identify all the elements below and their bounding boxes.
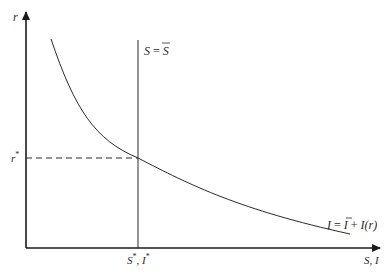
equilibrium-rate-label: r* <box>11 150 19 164</box>
svg-text:I = I + I(r): I = I + I(r) <box>326 218 377 232</box>
saving-line-label: S = S <box>144 43 170 58</box>
investment-curve-label: I = I + I(r) <box>326 218 377 232</box>
investment-curve <box>51 39 350 234</box>
svg-text:S = S: S = S <box>144 44 169 58</box>
svg-text:r*: r* <box>11 150 19 164</box>
equilibrium-quantity-label: S*, I* <box>127 252 150 266</box>
x-axis-label: S, I <box>364 254 380 266</box>
y-axis-label: r <box>13 10 18 24</box>
saving-investment-diagram: r S, I S = S r* S*, I* I = I + I(r) <box>0 0 392 278</box>
svg-text:S*, I*: S*, I* <box>127 252 150 266</box>
